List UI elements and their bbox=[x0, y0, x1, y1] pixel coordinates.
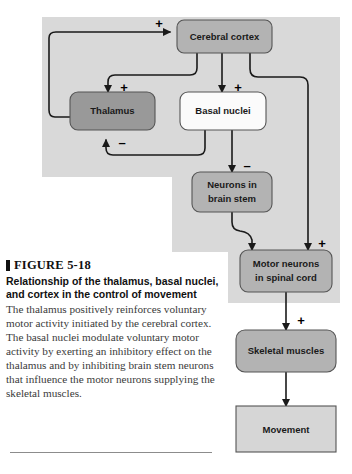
figure-body-text: The thalamus positively reinforces volun… bbox=[6, 302, 222, 401]
sign-cortex-to-basal-nuclei: + bbox=[234, 80, 242, 95]
node-label-motor-neurons-line1: Motor neurons bbox=[253, 258, 320, 269]
node-label-brain-stem-line2: brain stem bbox=[208, 193, 256, 204]
figure-caption: FIGURE 5-18 Relationship of the thalamus… bbox=[6, 258, 222, 400]
node-movement[interactable]: Movement bbox=[236, 406, 336, 452]
flowchart-diagram: Cerebral cortex Thalamus Basal nuclei Ne… bbox=[0, 0, 352, 474]
node-label-motor-neurons-line2: in spinal cord bbox=[255, 272, 317, 283]
node-motor-neurons-in-spinal-cord[interactable]: Motor neurons in spinal cord bbox=[240, 250, 332, 292]
figure-page: Cerebral cortex Thalamus Basal nuclei Ne… bbox=[0, 0, 352, 474]
sign-basal-nuclei-to-brain-stem: – bbox=[243, 158, 250, 173]
node-basal-nuclei[interactable]: Basal nuclei bbox=[180, 92, 266, 130]
node-label-cerebral-cortex: Cerebral cortex bbox=[190, 31, 260, 42]
node-thalamus[interactable]: Thalamus bbox=[70, 92, 155, 130]
node-label-movement: Movement bbox=[263, 424, 311, 435]
node-cerebral-cortex[interactable]: Cerebral cortex bbox=[177, 20, 272, 53]
node-neurons-in-brain-stem[interactable]: Neurons in brain stem bbox=[192, 172, 272, 212]
figure-number-label: FIGURE 5-18 bbox=[14, 258, 91, 273]
figure-square-marker-icon bbox=[6, 260, 10, 271]
figure-number-heading: FIGURE 5-18 bbox=[6, 258, 222, 273]
node-label-thalamus: Thalamus bbox=[90, 105, 134, 116]
sign-basal-nuclei-to-thalamus: – bbox=[118, 135, 125, 150]
sign-cortex-to-thalamus: + bbox=[120, 80, 128, 95]
node-label-brain-stem-line1: Neurons in bbox=[207, 179, 257, 190]
caption-divider bbox=[10, 452, 212, 453]
node-label-skeletal-muscles: Skeletal muscles bbox=[248, 345, 325, 356]
sign-thalamus-to-cortex: + bbox=[155, 16, 163, 31]
sign-cortex-to-motor-neurons: + bbox=[318, 236, 326, 251]
figure-title: Relationship of the thalamus, basal nucl… bbox=[6, 275, 222, 301]
node-skeletal-muscles[interactable]: Skeletal muscles bbox=[236, 330, 336, 372]
node-label-basal-nuclei: Basal nuclei bbox=[195, 105, 250, 116]
sign-motor-neurons-to-skeletal-muscles: + bbox=[297, 313, 305, 328]
